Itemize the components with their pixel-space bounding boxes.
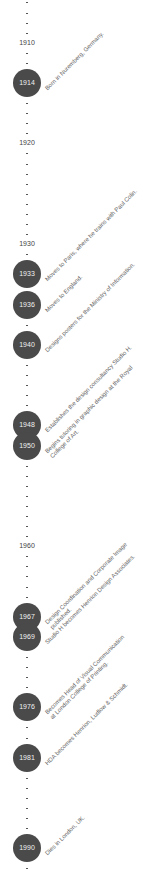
year-tick bbox=[26, 325, 28, 326]
event-year-dot: 1914 bbox=[13, 69, 41, 97]
year-tick bbox=[26, 113, 28, 114]
year-tick bbox=[26, 778, 28, 779]
year-tick bbox=[26, 13, 28, 14]
event-year-dot: 1950 bbox=[13, 432, 41, 460]
event-year-dot: 1969 bbox=[13, 623, 41, 651]
year-tick bbox=[26, 657, 28, 658]
year-tick bbox=[26, 153, 28, 154]
year-tick bbox=[26, 234, 28, 235]
year-tick bbox=[26, 103, 28, 104]
event-year-dot: 1976 bbox=[13, 693, 41, 721]
year-tick bbox=[26, 476, 28, 477]
year-tick bbox=[26, 133, 28, 134]
year-tick bbox=[26, 798, 28, 799]
year-tick bbox=[26, 405, 28, 406]
year-tick bbox=[26, 526, 28, 527]
year-tick bbox=[26, 738, 28, 739]
year-tick bbox=[26, 788, 28, 789]
year-tick bbox=[26, 194, 28, 195]
event-year-dot: 1940 bbox=[13, 331, 41, 359]
year-tick bbox=[26, 23, 28, 24]
year-tick bbox=[26, 375, 28, 376]
year-tick bbox=[26, 576, 28, 577]
year-tick bbox=[26, 365, 28, 366]
year-tick bbox=[26, 828, 28, 829]
year-tick bbox=[26, 536, 28, 537]
event-description: Dies in London, UK. bbox=[44, 815, 87, 858]
year-tick bbox=[26, 204, 28, 205]
year-tick bbox=[26, 123, 28, 124]
decade-label: 1910 bbox=[0, 39, 54, 47]
event-description: HDA becomes Henrion, Ludlow & Schmidt. bbox=[44, 681, 130, 767]
year-tick bbox=[26, 63, 28, 64]
year-tick bbox=[26, 597, 28, 598]
event-description: Design Coordination and Corporate Image … bbox=[44, 541, 134, 631]
decade-label: 1960 bbox=[0, 542, 54, 550]
year-tick bbox=[26, 466, 28, 467]
year-tick bbox=[26, 818, 28, 819]
year-tick bbox=[26, 667, 28, 668]
year-tick bbox=[26, 868, 28, 869]
year-tick bbox=[26, 486, 28, 487]
year-tick bbox=[26, 184, 28, 185]
event-year-dot: 1933 bbox=[13, 260, 41, 288]
event-description: Becomes Head of Visual Communication at … bbox=[44, 634, 131, 721]
event-description: Begins tutoring in graphic design at the… bbox=[44, 364, 139, 459]
event-year-dot: 1990 bbox=[13, 834, 41, 862]
event-description: Designs posters for the Ministry of Info… bbox=[44, 261, 137, 354]
year-tick bbox=[26, 506, 28, 507]
year-tick bbox=[26, 53, 28, 54]
year-tick bbox=[26, 496, 28, 497]
year-tick bbox=[26, 254, 28, 255]
event-description: Studio H becomes Henrion Design Associat… bbox=[44, 553, 137, 646]
year-tick bbox=[26, 164, 28, 165]
year-tick bbox=[26, 727, 28, 728]
decade-label: 1930 bbox=[0, 240, 54, 248]
year-tick bbox=[26, 587, 28, 588]
year-tick bbox=[26, 2, 28, 3]
year-tick bbox=[26, 214, 28, 215]
year-tick bbox=[26, 33, 28, 34]
timeline: 19101920193019601914Born in Nuremberg, G… bbox=[0, 0, 164, 873]
year-tick bbox=[26, 395, 28, 396]
year-tick bbox=[26, 174, 28, 175]
year-tick bbox=[26, 556, 28, 557]
year-tick bbox=[26, 224, 28, 225]
event-year-dot: 1981 bbox=[13, 744, 41, 772]
event-year-dot: 1936 bbox=[13, 291, 41, 319]
year-tick bbox=[26, 385, 28, 386]
year-tick bbox=[26, 687, 28, 688]
year-tick bbox=[26, 516, 28, 517]
decade-label: 1920 bbox=[0, 139, 54, 147]
year-tick bbox=[26, 566, 28, 567]
year-tick bbox=[26, 808, 28, 809]
year-tick bbox=[26, 677, 28, 678]
